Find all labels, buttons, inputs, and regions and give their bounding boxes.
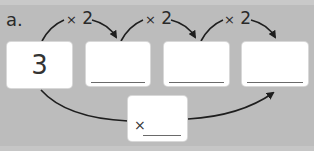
start-value: 3	[7, 50, 72, 80]
multiply-sign: ×	[134, 117, 146, 133]
arrow-step-2-out	[171, 20, 195, 37]
combined-factor-box[interactable]: ×	[128, 96, 187, 141]
answer-line	[169, 82, 224, 84]
exercise-label: a.	[6, 9, 23, 30]
answer-box-3[interactable]	[242, 42, 308, 86]
arrow-step-3-in	[201, 20, 223, 41]
answer-line	[91, 82, 145, 84]
answer-box-1[interactable]	[86, 42, 150, 86]
step-factor: 2	[240, 8, 251, 28]
multiply-sign: ×	[145, 12, 156, 27]
multiply-sign: ×	[224, 12, 235, 27]
step-factor: 2	[82, 8, 93, 28]
arrow-combined-out	[188, 93, 273, 119]
answer-box-2[interactable]	[164, 42, 229, 86]
start-value-box: 3	[7, 42, 72, 88]
multiply-sign: ×	[66, 12, 77, 27]
arrow-step-1-in	[42, 20, 64, 41]
step-factor: 2	[161, 8, 172, 28]
step-2-label: × 2	[145, 8, 172, 28]
answer-line	[143, 135, 181, 137]
arrow-step-1-out	[92, 20, 116, 37]
step-1-label: × 2	[66, 8, 93, 28]
arrow-step-3-out	[251, 20, 275, 37]
arrow-combined-in	[41, 90, 128, 121]
arrow-step-2-in	[121, 20, 143, 41]
step-3-label: × 2	[224, 8, 251, 28]
answer-line	[247, 82, 303, 84]
